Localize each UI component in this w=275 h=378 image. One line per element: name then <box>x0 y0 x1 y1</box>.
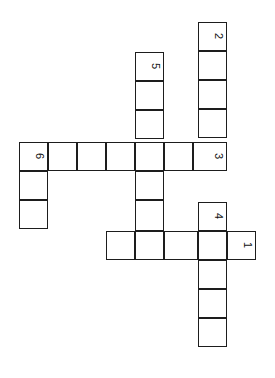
crossword-clue-number: 6 <box>33 150 45 162</box>
crossword-clue-number: 2 <box>212 30 224 42</box>
crossword-clue-number: 4 <box>212 210 224 222</box>
crossword-number-layer: 253641 <box>0 0 275 378</box>
crossword-clue-number: 1 <box>241 239 253 251</box>
crossword-clue-number: 5 <box>149 60 161 72</box>
crossword-puzzle: 253641 <box>0 0 275 378</box>
crossword-clue-number: 3 <box>212 150 224 162</box>
